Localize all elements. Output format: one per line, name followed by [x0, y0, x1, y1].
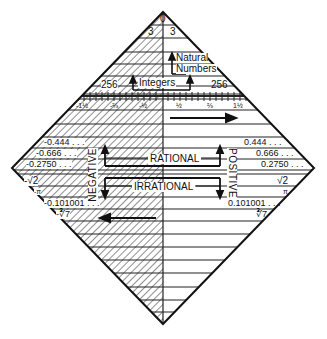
three-right-label: 3 — [170, 27, 176, 37]
fraction-right-2: ⅔ — [207, 102, 213, 109]
natural-label-line2: Numbers — [176, 64, 217, 74]
rational-right-1: 0.444 . . . — [244, 138, 282, 147]
natural-label-line1: Natural — [176, 53, 208, 63]
integer-right-value: 256 — [211, 80, 228, 90]
negative-label: NEGATIVE — [88, 148, 98, 202]
rational-right-2: 0.666 . . . — [256, 149, 294, 158]
rational-left-1: -0.444 . . . — [44, 138, 85, 147]
rational-label: RATIONAL — [148, 154, 201, 164]
integer-left-value: 256 — [101, 80, 118, 90]
irrational-left-4: -∛7 — [56, 210, 70, 219]
rational-left-2: -0.666 . . . — [36, 149, 77, 158]
irrational-label: IRRATIONAL — [132, 182, 195, 192]
irrational-right-2: π — [283, 188, 288, 195]
rational-left-3: -0.2750 . . . — [26, 160, 72, 169]
irrational-right-1: √2 — [277, 176, 288, 186]
fraction-left-1: -1½ — [76, 102, 88, 109]
irrational-left-1: -√2 — [24, 176, 38, 186]
fraction-right-1: ½ — [176, 102, 182, 109]
irrational-right-3: 0.101001 . . . — [228, 199, 281, 208]
fraction-right-3: 1½ — [233, 102, 243, 109]
right-arrow-icon — [170, 114, 236, 122]
diamond-graphic — [0, 0, 327, 339]
number-system-diagram: 0 3 3 Natural Numbers Integers 256 256 -… — [0, 0, 327, 339]
fraction-left-3: -½ — [139, 102, 147, 109]
three-left-label: 3 — [148, 27, 154, 37]
positive-label: POSITIVE — [227, 148, 237, 198]
fraction-left-2: -⅔ — [110, 102, 118, 109]
rational-right-3: 0.2750 . . . — [261, 160, 304, 169]
irrational-right-4: ∛7 — [256, 210, 267, 219]
integers-label: Integers — [138, 78, 176, 88]
zero-label: 0 — [160, 14, 166, 24]
irrational-left-2: -π — [34, 188, 41, 195]
